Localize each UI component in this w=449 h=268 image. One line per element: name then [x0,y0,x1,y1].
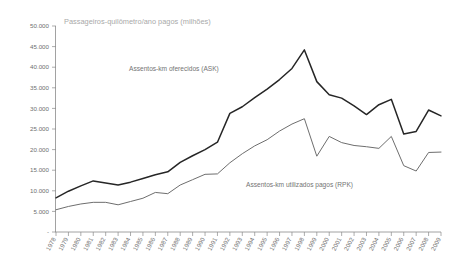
y-tick-label: 5.000 [34,208,50,215]
ask-series-annotation: Assentos-km oferecidos (ASK) [129,65,219,73]
chart-container: 50.00045.00040.00035.00030.00025.00020.0… [0,0,449,268]
rpk-series-annotation: Assentos-km utilizados pagos (RPK) [246,181,353,189]
y-tick-label: 30.000 [30,105,49,112]
chart-background [0,0,449,268]
y-tick-label: 35.000 [30,84,49,91]
y-tick-label: 20.000 [30,146,49,153]
y-tick-label: 25.000 [30,125,49,132]
y-tick-label: - [47,228,49,235]
y-tick-label: 10.000 [30,187,49,194]
y-tick-label: 50.000 [30,22,49,29]
page-title: Passageiros-quilômetro/ano pagos (milhõe… [64,17,211,26]
y-tick-label: 40.000 [30,63,49,70]
y-tick-label: 15.000 [30,166,49,173]
y-tick-label: 45.000 [30,43,49,50]
line-chart: 50.00045.00040.00035.00030.00025.00020.0… [0,0,449,268]
